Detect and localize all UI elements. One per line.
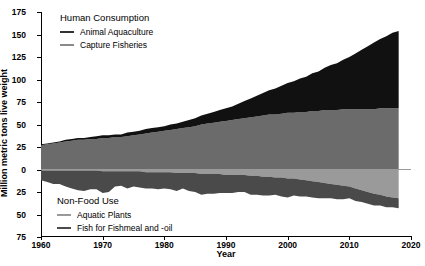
- legend-item-aquatic-plants: Aquatic Plants: [57, 210, 172, 220]
- legend-swatch-fishmeal: [57, 227, 71, 230]
- x-axis-title: Year: [41, 249, 411, 259]
- legend-title-non-food-use: Non-Food Use: [57, 195, 172, 206]
- legend-item-capture-fisheries: Capture Fisheries: [60, 40, 153, 50]
- legend-item-animal-aquaculture: Animal Aquaculture: [60, 27, 153, 37]
- legend-swatch-animal-aquaculture: [60, 31, 74, 34]
- legend-human-consumption: Human Consumption Animal Aquaculture Cap…: [60, 12, 153, 50]
- legend-label-fishmeal: Fish for Fishmeal and -oil: [77, 223, 172, 233]
- legend-title-human-consumption: Human Consumption: [60, 12, 153, 23]
- legend-label-capture-fisheries: Capture Fisheries: [80, 40, 147, 50]
- legend-non-food-use: Non-Food Use Aquatic Plants Fish for Fis…: [57, 195, 172, 233]
- legend-item-fishmeal: Fish for Fishmeal and -oil: [57, 223, 172, 233]
- legend-swatch-aquatic-plants: [57, 214, 71, 217]
- legend-swatch-capture-fisheries: [60, 44, 74, 47]
- legend-label-aquatic-plants: Aquatic Plants: [77, 210, 131, 220]
- legend-label-animal-aquaculture: Animal Aquaculture: [80, 27, 153, 37]
